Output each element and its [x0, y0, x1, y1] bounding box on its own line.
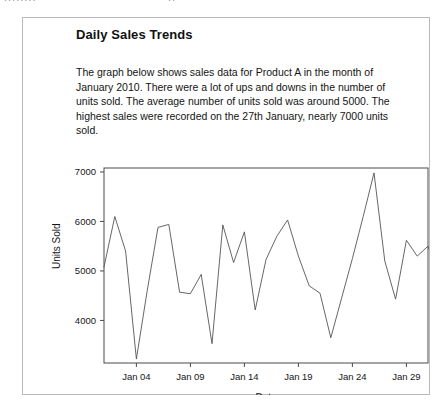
document-frame: Daily Sales Trends The graph below shows…	[22, 17, 430, 395]
x-axis-title: Date	[255, 392, 277, 395]
x-tick-label: Jan 29	[392, 371, 421, 382]
line-chart: 4000500060007000Jan 04Jan 09Jan 14Jan 19…	[23, 130, 429, 395]
intro-paragraph: The graph below shows sales data for Pro…	[76, 65, 406, 138]
x-tick-label: Jan 24	[338, 371, 367, 382]
plot-frame	[104, 168, 428, 363]
y-tick-label: 7000	[75, 166, 96, 177]
x-tick-label: Jan 04	[122, 371, 151, 382]
y-tick-label: 5000	[75, 265, 96, 276]
y-axis-title: Units Sold	[51, 223, 62, 269]
chart-svg: 4000500060007000Jan 04Jan 09Jan 14Jan 19…	[23, 130, 429, 395]
y-tick-label: 4000	[75, 315, 96, 326]
clipped-header-left: ........	[4, 0, 36, 3]
x-tick-label: Jan 19	[284, 371, 313, 382]
clipped-header-right: ..	[168, 0, 176, 3]
x-tick-label: Jan 14	[230, 371, 259, 382]
clipped-header-text: ........ ..	[0, 0, 448, 10]
page-title: Daily Sales Trends	[76, 27, 193, 42]
x-tick-label: Jan 09	[176, 371, 205, 382]
y-tick-label: 6000	[75, 216, 96, 227]
series-line-product-a-units-sold	[104, 173, 429, 359]
